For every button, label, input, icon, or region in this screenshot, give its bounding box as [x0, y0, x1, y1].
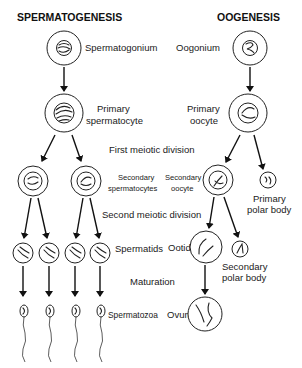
spermatogonium-label: Spermatogonium: [85, 42, 157, 53]
secondary-polar-body-label-1: Secondary: [222, 261, 268, 272]
arrow-icon: [72, 135, 81, 161]
oogenesis-title: OOGENESIS: [217, 11, 280, 23]
maturation-label: Maturation: [130, 276, 175, 287]
secondary-oocyte-label-1: Secondary: [165, 173, 202, 182]
ovum-cell: [188, 297, 222, 331]
arrow-icon: [254, 135, 263, 169]
primary-polar-body-label-1: Primary: [253, 193, 286, 204]
secondary-spermatocyte-cell: [18, 166, 48, 196]
secondary-spermatocytes-label-2: spermatocytes: [108, 184, 158, 193]
primary-oocyte-label-1: Primary: [187, 103, 220, 114]
second-meiotic-division-label: Second meiotic division: [102, 209, 201, 220]
secondary-polar-body-cell: [232, 241, 248, 257]
spermatids-label: Spermatids: [115, 243, 163, 254]
spermatid-cell: [90, 243, 110, 263]
arrow-icon: [90, 198, 99, 238]
spermatogenesis-title: SPERMATOGENESIS: [17, 11, 122, 23]
spermatozoa-label: Spermatozoa: [108, 310, 158, 320]
ootid-label: Ootid: [168, 242, 191, 253]
arrow-icon: [38, 198, 47, 238]
primary-spermatocyte-cell: [45, 94, 83, 132]
gametogenesis-diagram: SPERMATOGENESIS OOGENESIS Spermatogonium…: [0, 0, 302, 368]
first-meiotic-division-label: First meiotic division: [109, 144, 195, 155]
secondary-oocyte-cell: [203, 165, 233, 195]
spermatid-cell: [13, 243, 33, 263]
arrow-icon: [24, 198, 31, 238]
spermatozoon: [20, 305, 28, 362]
ootid-cell: [190, 231, 222, 263]
arrow-icon: [224, 197, 238, 237]
spermatozoon: [97, 305, 105, 362]
primary-oocyte-cell: [229, 94, 267, 132]
arrow-icon: [76, 198, 83, 238]
oogonium-cell: [233, 31, 267, 65]
secondary-polar-body-label-2: polar body: [222, 272, 267, 283]
spermatozoon: [72, 305, 80, 362]
secondary-oocyte-label-2: oocyte: [171, 184, 193, 193]
arrow-icon: [226, 135, 240, 162]
spermatid-cell: [39, 243, 59, 263]
primary-spermatocyte-label-1: Primary: [97, 103, 130, 114]
primary-polar-body-label-2: polar body: [247, 204, 292, 215]
secondary-spermatocyte-cell: [71, 166, 101, 196]
spermatid-cell: [65, 243, 85, 263]
spermatogonium-cell: [47, 31, 81, 65]
arrow-icon: [42, 135, 55, 161]
primary-oocyte-label-2: oocyte: [190, 115, 218, 126]
primary-polar-body-cell: [260, 172, 276, 188]
secondary-spermatocytes-label-1: Secondary: [118, 173, 155, 182]
arrow-icon: [209, 197, 214, 228]
oogonium-label: Oogonium: [176, 42, 220, 53]
primary-spermatocyte-label-2: spermatocyte: [86, 115, 143, 126]
spermatozoon: [46, 305, 54, 362]
